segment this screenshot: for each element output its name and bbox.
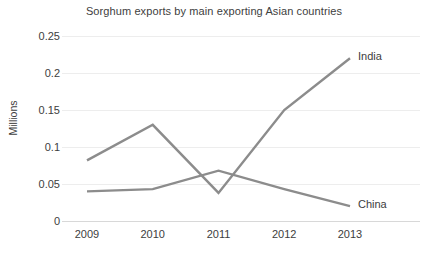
series-label-china: China xyxy=(358,198,387,210)
series-label-india: India xyxy=(358,50,382,62)
x-tick-label: 2011 xyxy=(189,228,249,240)
x-tick-label: 2010 xyxy=(123,228,183,240)
x-tick-label: 2012 xyxy=(254,228,314,240)
x-axis-tick-labels: 20092010201120122013 xyxy=(0,0,428,257)
x-tick-label: 2009 xyxy=(57,228,117,240)
x-tick-label: 2013 xyxy=(320,228,380,240)
chart-container: Sorghum exports by main exporting Asian … xyxy=(0,0,428,257)
